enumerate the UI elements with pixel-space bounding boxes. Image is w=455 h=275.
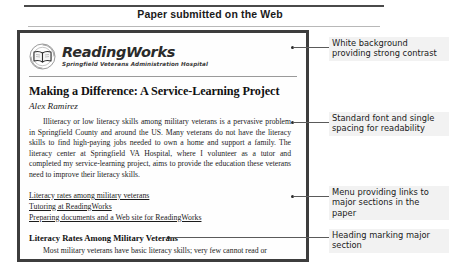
- section-link-menu: Literacy rates among military veterans T…: [29, 190, 297, 223]
- caption-title: Paper submitted on the Web: [0, 8, 420, 20]
- open-book-seal-icon: [29, 43, 56, 70]
- menu-link-literacy-rates[interactable]: Literacy rates among military veterans: [29, 190, 149, 201]
- menu-link-tutoring[interactable]: Tutoring at ReadingWorks: [29, 201, 112, 212]
- annotation-white-background: White background providing strong contra…: [329, 37, 449, 61]
- callout-leader-menu-links: [293, 196, 329, 197]
- brand-subtitle: Springfield Veterans Administration Hosp…: [62, 62, 208, 68]
- section-body-paragraph: Most military veterans have basic litera…: [29, 246, 291, 257]
- callout-leader-standard-font: [293, 122, 329, 123]
- article-body-paragraph: Illiteracy or low literacy skills among …: [29, 117, 291, 181]
- brand-block: ReadingWorks Springfield Veterans Admini…: [62, 44, 208, 67]
- annotation-heading-marker: Heading marking major section: [329, 229, 449, 253]
- annotation-standard-font: Standard font and single spacing for rea…: [329, 112, 449, 136]
- masthead: ReadingWorks Springfield Veterans Admini…: [29, 39, 297, 73]
- annotation-menu-links: Menu providing links to major sections i…: [329, 186, 449, 220]
- caption-rule-bottom: [28, 26, 380, 27]
- article-author: Alex Ramirez: [29, 101, 297, 111]
- callout-leader-white-background: [293, 47, 329, 48]
- callout-leader-heading-marker: [170, 237, 329, 238]
- article-title: Making a Difference: A Service-Learning …: [29, 84, 297, 99]
- document-frame: ReadingWorks Springfield Veterans Admini…: [17, 30, 309, 262]
- caption-rule-top: [24, 5, 384, 7]
- caption-zone: Paper submitted on the Web: [0, 0, 455, 28]
- article: Making a Difference: A Service-Learning …: [29, 77, 297, 181]
- document-page: ReadingWorks Springfield Veterans Admini…: [20, 33, 306, 259]
- menu-link-preparing-documents[interactable]: Preparing documents and a Web site for R…: [29, 212, 201, 223]
- brand-name: ReadingWorks: [62, 45, 208, 60]
